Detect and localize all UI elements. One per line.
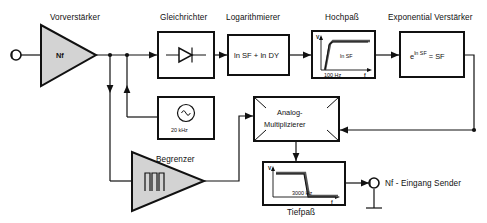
diagram-canvas: Nf Vorverstärker Gleichrichter ln SF + l…: [0, 0, 487, 223]
arrowhead-lowpass-in: [293, 153, 300, 161]
junction-dot-exp-corner: [472, 128, 476, 132]
vorverstaerker-caption: Vorverstärker: [50, 13, 100, 22]
arrowhead-node-b: [124, 85, 131, 93]
block-hochpass[interactable]: V f ln SF 100 Hz: [312, 31, 375, 78]
tiefpass-caption: Tiefpaß: [287, 208, 315, 217]
junction-dot-a: [108, 53, 112, 57]
multiplizierer-label-line1: Analog-: [277, 108, 303, 117]
block-tiefpass[interactable]: V f 3000 Hz: [263, 162, 345, 205]
logarithmierer-caption: Logarithmierer: [226, 13, 280, 22]
block-exponential-verstaerker[interactable]: eln SF = SF: [400, 32, 464, 77]
block-oszillator[interactable]: 20 kHz: [158, 97, 214, 139]
arrowhead-output: [361, 180, 369, 187]
input-terminal[interactable]: [11, 50, 21, 60]
block-analog-multiplizierer[interactable]: Analog- Multiplizierer: [254, 97, 339, 141]
arrowhead-rectifier-in: [149, 52, 157, 59]
block-vorverstaerker[interactable]: Nf: [41, 25, 96, 86]
arrowhead-multiplier-left-in: [245, 113, 253, 120]
hochpass-inner-label: ln SF: [340, 53, 353, 59]
block-diagram: Nf Vorverstärker Gleichrichter ln SF + l…: [0, 0, 487, 223]
block-gleichrichter[interactable]: [158, 32, 214, 78]
oszillator-freq-label: 20 kHz: [171, 127, 188, 133]
hochpass-caption: Hochpaß: [325, 13, 359, 22]
block-logarithmierer[interactable]: ln SF + ln DY: [228, 35, 289, 75]
arrowhead-node-a: [107, 85, 114, 93]
logarithmierer-inner-label: ln SF + ln DY: [234, 51, 279, 60]
exp-verstaerker-caption: Exponential Verstärker: [388, 13, 473, 22]
vorverstaerker-inner-label: Nf: [56, 51, 64, 60]
output-terminal-label: Nf - Eingang Sender: [385, 179, 461, 188]
arrowhead-log-in: [219, 52, 227, 59]
gleichrichter-caption: Gleichrichter: [160, 13, 207, 22]
junction-dot-b: [125, 53, 129, 57]
hochpass-freq-label: 100 Hz: [324, 72, 341, 78]
output-terminal[interactable]: [369, 178, 379, 188]
arrowhead-exp-in: [391, 52, 399, 59]
arrowhead-multiplier-right-in: [340, 127, 348, 134]
tiefpass-freq-label: 3000 Hz: [292, 190, 312, 196]
begrenzer-caption: Begrenzer: [156, 155, 195, 164]
multiplizierer-label-line2: Multiplizierer: [264, 120, 306, 129]
arrowhead-highpass-in: [303, 52, 311, 59]
